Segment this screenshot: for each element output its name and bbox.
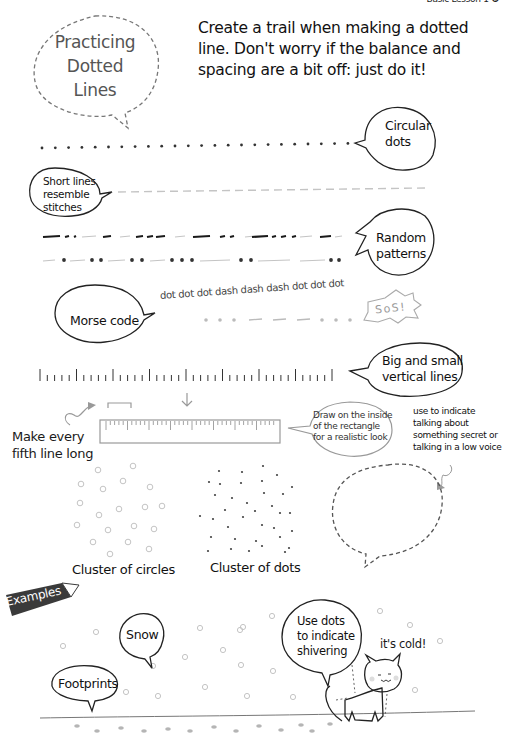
whisper-arrow-icon — [440, 465, 452, 487]
snow-label: Snow — [126, 627, 159, 643]
down-arrow-icon — [182, 393, 192, 406]
cluster-dots-caption: Cluster of dots — [210, 560, 301, 575]
label-line: Circular — [385, 118, 431, 134]
title-bubble-text: Practicing Dotted Lines — [40, 30, 150, 102]
arrow-head-icon — [88, 402, 96, 410]
morse-code-label: Morse code — [70, 313, 139, 329]
random-pattern-line-1 — [43, 236, 342, 237]
label-line: Use dots — [297, 614, 355, 629]
cluster-of-dots — [199, 465, 293, 553]
title-line: Lines — [40, 78, 150, 102]
morse-code-line — [204, 318, 352, 322]
cat-head — [365, 654, 402, 692]
footprint-marks — [74, 722, 333, 733]
label-line: resemble — [43, 188, 96, 201]
cat-cheek-left — [370, 677, 375, 682]
bracket-mark — [108, 403, 131, 408]
label-line: fifth line long — [12, 445, 93, 462]
label-line: to indicate — [297, 629, 355, 644]
whisper-dashed-bubble — [332, 464, 442, 567]
ground-line — [40, 711, 475, 718]
label-line: Short lines — [43, 175, 96, 188]
vertical-lines-pattern — [40, 369, 332, 381]
cluster-of-circles — [74, 463, 165, 557]
label-line: of the rectangle — [313, 421, 392, 432]
cat-tail — [326, 686, 342, 721]
label-line: Random — [376, 230, 426, 246]
page-header-note: Basic Lesson 1 ❷ — [427, 0, 499, 4]
whisper-note: use to indicate talking about something … — [413, 405, 501, 453]
circular-dots-line — [41, 142, 350, 149]
label-line: stitches — [43, 201, 96, 214]
circular-dots-label: Circular dots — [385, 118, 431, 150]
label-line: something secret or — [413, 429, 501, 441]
stitches-line — [118, 188, 425, 192]
label-line: use to indicate — [413, 405, 501, 417]
title-line: Practicing — [40, 30, 150, 54]
curled-arrow-icon — [65, 406, 90, 425]
cat-cheek-right — [394, 676, 399, 681]
cluster-circles-caption: Cluster of circles — [72, 562, 175, 577]
cat-body — [345, 688, 383, 721]
stitches-label: Short lines resemble stitches — [43, 175, 96, 214]
vertical-lines-label: Big and small vertical lines — [382, 353, 463, 385]
ruler-side-note: Make every fifth line long — [12, 428, 93, 462]
ruler-rectangle — [100, 420, 280, 443]
ruler-tip-text: Draw on the inside of the rectangle for … — [313, 410, 392, 443]
shivering-label: Use dots to indicate shivering — [297, 614, 355, 659]
cat-face — [378, 674, 391, 682]
label-line: Make every — [12, 428, 93, 445]
label-line: Draw on the inside — [313, 410, 392, 421]
random-pattern-line-2 — [43, 258, 341, 262]
label-line: talking in a low voice — [413, 441, 501, 453]
cat-speech: it's cold! — [380, 637, 426, 651]
label-line: dots — [385, 134, 431, 150]
label-line: vertical lines — [382, 369, 463, 385]
shiver-dots — [336, 665, 387, 717]
intro-text: Create a trail when making a dotted line… — [198, 18, 498, 81]
label-line: shivering — [297, 644, 355, 659]
random-patterns-label: Random patterns — [376, 230, 426, 262]
label-line: for a realistic look — [313, 432, 392, 443]
label-line: Big and small — [382, 353, 463, 369]
footprints-label: Footprints — [58, 676, 118, 692]
title-line: Dotted — [40, 54, 150, 78]
label-line: talking about — [413, 417, 501, 429]
label-line: patterns — [376, 246, 426, 262]
